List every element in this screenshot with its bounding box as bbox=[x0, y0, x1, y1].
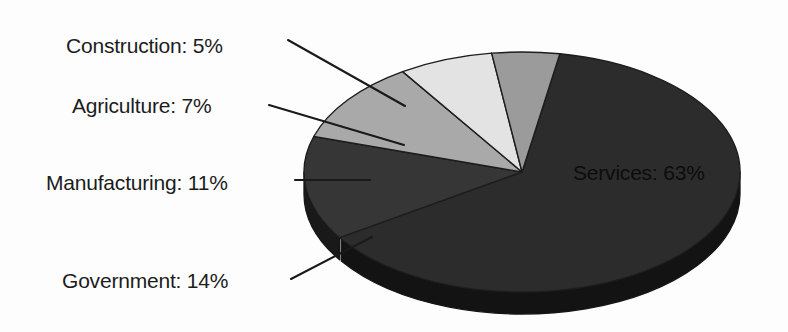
pie-chart-canvas: Construction: 5% Agriculture: 7% Manufac… bbox=[0, 0, 788, 332]
pie-label-construction: Construction: 5% bbox=[66, 34, 223, 57]
leader-line-construction bbox=[288, 40, 405, 106]
pie-label-manufacturing: Manufacturing: 11% bbox=[46, 171, 228, 194]
pie-label-services: Services: 63% bbox=[573, 161, 705, 184]
pie-label-government: Government: 14% bbox=[62, 269, 228, 292]
pie-label-agriculture: Agriculture: 7% bbox=[72, 94, 211, 117]
pie-chart-figure: Construction: 5% Agriculture: 7% Manufac… bbox=[0, 0, 788, 332]
